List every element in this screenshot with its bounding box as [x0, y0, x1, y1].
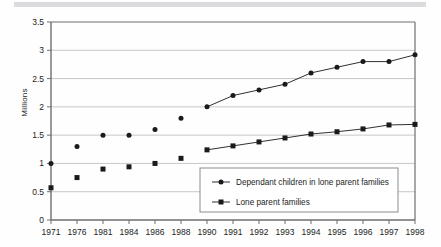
y-tick-label: 0	[39, 215, 44, 225]
data-point-marker	[205, 104, 210, 109]
legend-marker-square-icon	[219, 200, 224, 205]
y-tick-label: 2	[39, 102, 44, 112]
x-tick-label: 1998	[406, 227, 425, 237]
chart-legend: Dependant children in lone parent famili…	[200, 168, 398, 212]
y-tick-label: 1	[39, 158, 44, 168]
data-point-marker	[101, 133, 106, 138]
legend-label: Lone parent families	[236, 198, 310, 207]
y-tick-label: 2.5	[32, 74, 44, 84]
data-point-marker	[257, 87, 262, 92]
series-line	[207, 55, 415, 107]
data-point-marker	[205, 147, 210, 152]
data-point-marker	[387, 122, 392, 127]
data-point-marker	[361, 126, 366, 131]
x-tick-label: 1991	[224, 227, 243, 237]
data-point-marker	[179, 156, 184, 161]
x-tick-label: 1995	[328, 227, 347, 237]
data-point-marker	[153, 161, 158, 166]
y-tick-label: 1.5	[32, 130, 44, 140]
x-tick-label: 1986	[146, 227, 165, 237]
x-tick-label: 1996	[354, 227, 373, 237]
data-point-marker	[101, 167, 106, 172]
x-tick-label: 1992	[250, 227, 269, 237]
data-point-marker	[231, 93, 236, 98]
legend-label: Dependant children in lone parent famili…	[236, 178, 389, 187]
y-tick-label: 3.5	[32, 17, 44, 27]
data-point-marker	[49, 161, 54, 166]
data-point-marker	[75, 175, 80, 180]
data-point-marker	[413, 122, 418, 127]
scan-artifact-band	[14, 2, 426, 7]
data-point-marker	[335, 65, 340, 70]
y-axis-title: Millions	[20, 73, 29, 133]
data-point-marker	[309, 132, 314, 137]
data-point-marker	[49, 185, 54, 190]
x-tick-label: 1990	[198, 227, 217, 237]
x-tick-label: 1984	[120, 227, 139, 237]
x-axis-ticks-group: 1971197619811984198619881990199119921993…	[42, 220, 425, 237]
data-point-marker	[309, 70, 314, 75]
x-tick-label: 1971	[42, 227, 61, 237]
data-point-marker	[75, 144, 80, 149]
x-tick-label: 1994	[302, 227, 321, 237]
data-point-marker	[231, 143, 236, 148]
x-tick-label: 1981	[94, 227, 113, 237]
data-point-marker	[361, 59, 366, 64]
data-point-marker	[179, 116, 184, 121]
x-tick-label: 1993	[276, 227, 295, 237]
data-point-marker	[283, 82, 288, 87]
chart-plot-area: 00.511.522.533.5 19711976198119841986198…	[0, 0, 441, 247]
x-tick-label: 1988	[172, 227, 191, 237]
y-tick-label: 0.5	[32, 187, 44, 197]
data-point-marker	[127, 164, 132, 169]
data-point-marker	[387, 59, 392, 64]
y-tick-label: 3	[39, 45, 44, 55]
chart-figure: Millions 00.511.522.533.5 19711976198119…	[0, 0, 441, 247]
data-point-marker	[335, 129, 340, 134]
x-tick-label: 1997	[380, 227, 399, 237]
data-point-marker	[413, 52, 418, 57]
data-point-marker	[153, 127, 158, 132]
legend-marker-circle-icon	[219, 180, 224, 185]
data-point-marker	[283, 135, 288, 140]
y-axis-ticks-group: 00.511.522.533.5	[32, 17, 51, 225]
series-line	[207, 124, 415, 149]
data-point-marker	[127, 133, 132, 138]
data-point-marker	[257, 139, 262, 144]
x-tick-label: 1976	[68, 227, 87, 237]
